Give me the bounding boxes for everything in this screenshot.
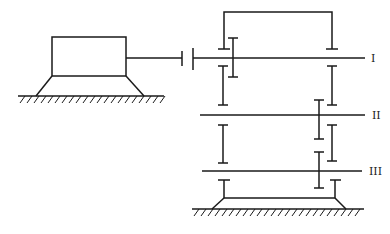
gear-shaft-3 <box>314 152 324 188</box>
gear-left-2-3 <box>218 125 228 163</box>
shaft-1-label: I <box>371 52 375 65</box>
ground-gearbox <box>192 209 364 216</box>
housing-bracket <box>218 12 338 49</box>
gearbox-base <box>212 180 346 209</box>
transmission-diagram: I II III <box>0 0 390 234</box>
gear-right-2-3 <box>327 125 337 161</box>
shaft-3-label: III <box>369 165 382 178</box>
motor-body <box>52 37 126 76</box>
gear-shaft-2 <box>314 100 324 139</box>
gear-right-1-2 <box>327 66 337 105</box>
ground-motor <box>18 96 165 103</box>
shaft-2-label: II <box>372 109 381 122</box>
gear-left-1-2 <box>218 66 228 105</box>
motor-base-right-leg <box>126 76 144 96</box>
motor-base-left-leg <box>36 76 52 96</box>
motor <box>36 37 144 96</box>
coupling <box>182 48 193 70</box>
